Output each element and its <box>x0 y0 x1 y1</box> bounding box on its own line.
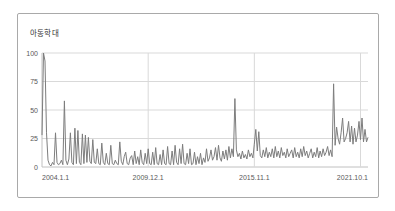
x-tick-label: 2009.12.1 <box>133 174 164 181</box>
gridlines <box>42 53 368 167</box>
axis-tick-labels: 02550751002004.1.12009.12.12015.11.12021… <box>26 50 368 182</box>
x-tick-label: 2021.10.1 <box>337 174 368 181</box>
x-tick-label: 2015.11.1 <box>239 174 270 181</box>
y-tick-label: 50 <box>30 107 38 114</box>
y-tick-label: 100 <box>26 50 38 57</box>
y-tick-label: 0 <box>34 164 38 171</box>
trend-line <box>42 53 368 166</box>
trend-line-series <box>42 53 368 166</box>
y-tick-label: 25 <box>30 135 38 142</box>
x-tick-label: 2004.1.1 <box>42 174 69 181</box>
y-tick-label: 75 <box>30 78 38 85</box>
trend-line-chart: 02550751002004.1.12009.12.12015.11.12021… <box>0 0 395 211</box>
